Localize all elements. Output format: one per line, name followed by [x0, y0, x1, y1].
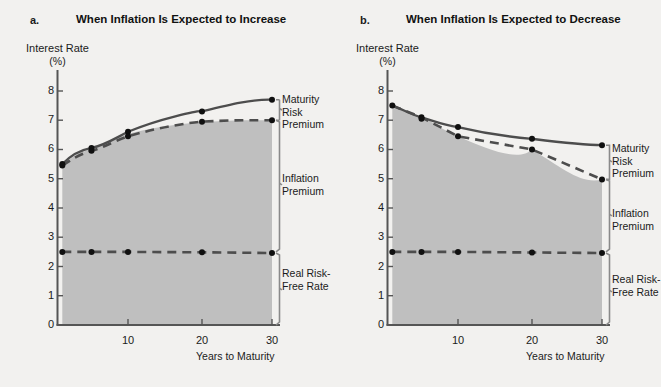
- panel-b-ytick-3: 3: [368, 230, 384, 242]
- panel-b-data-points: [389, 103, 605, 256]
- figure-canvas: a. When Inflation Is Expected to Increas…: [0, 0, 661, 387]
- panel-a-y-axis-units: (%): [26, 55, 89, 68]
- panel-b-bracket-maturity-risk-premium: Maturity Risk Premium: [612, 142, 654, 180]
- bracket-a-rrf-line1: Real Risk-: [282, 267, 330, 280]
- panel-b-y-tick-marks: [388, 91, 394, 296]
- bracket-b-rrf-line2: Free Rate: [612, 286, 660, 299]
- panel-b-shaded-area: [392, 106, 602, 325]
- panel-b-ytick-5: 5: [368, 172, 384, 184]
- panel-a-ytick-6: 6: [38, 142, 54, 154]
- panel-a-y-tick-marks: [58, 91, 64, 296]
- panel-a-bracket-inflation-premium: Inflation Premium: [282, 172, 324, 197]
- panel-a-y-axis-title: Interest Rate (%): [26, 42, 89, 68]
- panel-a-ytick-3: 3: [38, 230, 54, 242]
- panel-a-ytick-8: 8: [38, 84, 54, 96]
- panel-a-data-points: [59, 97, 275, 256]
- chart-panel-a: a. When Inflation Is Expected to Increas…: [0, 0, 330, 387]
- panel-a-x-tick-marks: [128, 319, 272, 325]
- bracket-a-ip-line2: Premium: [282, 185, 324, 198]
- panel-a-title: When Inflation Is Expected to Increase: [76, 13, 286, 25]
- chart-panel-b: b. When Inflation Is Expected to Decreas…: [330, 0, 661, 387]
- bracket-b-mrp-line3: Premium: [612, 167, 654, 180]
- panel-a-ytick-2: 2: [38, 260, 54, 272]
- panel-b-ytick-0: 0: [368, 318, 384, 330]
- panel-a-ytick-7: 7: [38, 113, 54, 125]
- panel-b-series-real-risk-free-rate: [392, 252, 602, 253]
- panel-b-y-axis-title: Interest Rate (%): [356, 42, 419, 68]
- bracket-a-ip-line1: Inflation: [282, 172, 324, 185]
- panel-b-bracket-inflation-premium: Inflation Premium: [612, 207, 654, 232]
- panel-b-xtick-30: 30: [590, 334, 614, 346]
- panel-a-x-axis-title: Years to Maturity: [196, 350, 274, 362]
- panel-b-title: When Inflation Is Expected to Decrease: [406, 13, 621, 25]
- bracket-a-rrf-line2: Free Rate: [282, 280, 330, 293]
- panel-b-ytick-2: 2: [368, 260, 384, 272]
- panel-b-series-inflation-premium: [392, 106, 602, 180]
- panel-b-ytick-1: 1: [368, 289, 384, 301]
- bracket-a-mrp-line2: Risk: [282, 106, 324, 119]
- panel-a-ytick-0: 0: [38, 318, 54, 330]
- bracket-b-mrp-line2: Risk: [612, 155, 654, 168]
- panel-a-xtick-20: 20: [190, 334, 214, 346]
- panel-a-bracket-real-risk-free-rate: Real Risk- Free Rate: [282, 267, 330, 292]
- bracket-b-mrp-line1: Maturity: [612, 142, 654, 155]
- panel-a-series-inflation-premium: [62, 120, 272, 165]
- panel-a-series-real-risk-free-rate: [62, 252, 272, 253]
- panel-a-series-nominal-rate: [62, 100, 272, 164]
- panel-b-ytick-8: 8: [368, 84, 384, 96]
- panel-b-xtick-10: 10: [446, 334, 470, 346]
- panel-b-y-axis-units: (%): [356, 55, 419, 68]
- panel-a-ytick-1: 1: [38, 289, 54, 301]
- panel-a-shaded-area: [62, 120, 272, 325]
- panel-a-letter: a.: [30, 14, 39, 26]
- panel-a-bracket-maturity-risk-premium: Maturity Risk Premium: [282, 93, 324, 131]
- bracket-b-rrf-line1: Real Risk-: [612, 273, 660, 286]
- panel-b-ytick-7: 7: [368, 113, 384, 125]
- panel-b-letter: b.: [360, 14, 370, 26]
- panel-a-xtick-10: 10: [116, 334, 140, 346]
- bracket-b-ip-line1: Inflation: [612, 207, 654, 220]
- panel-a-y-axis-title-text: Interest Rate: [26, 42, 89, 54]
- panel-a-ytick-5: 5: [38, 172, 54, 184]
- panel-b-xtick-20: 20: [520, 334, 544, 346]
- panel-b-series-nominal-rate: [392, 106, 602, 146]
- bracket-a-mrp-line3: Premium: [282, 118, 324, 131]
- panel-b-y-axis-title-text: Interest Rate: [356, 42, 419, 54]
- panel-b-x-tick-marks: [458, 319, 602, 325]
- bracket-a-mrp-line1: Maturity: [282, 93, 324, 106]
- bracket-b-ip-line2: Premium: [612, 220, 654, 233]
- panel-b-ytick-6: 6: [368, 142, 384, 154]
- panel-a-xtick-30: 30: [260, 334, 284, 346]
- panel-b-x-axis-title: Years to Maturity: [526, 350, 604, 362]
- panel-b-bracket-real-risk-free-rate: Real Risk- Free Rate: [612, 273, 660, 298]
- panel-a-ytick-4: 4: [38, 201, 54, 213]
- panel-b-ytick-4: 4: [368, 201, 384, 213]
